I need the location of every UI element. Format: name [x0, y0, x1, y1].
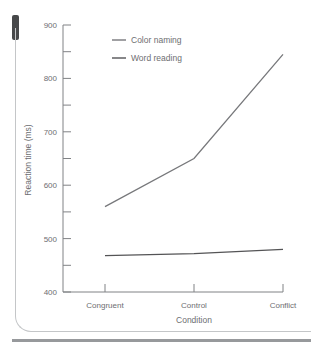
y-tick-label: 600 [44, 181, 58, 190]
series-line-word-reading [105, 249, 283, 255]
x-tick-label-conflict: Conflict [270, 301, 297, 310]
legend-label-word-reading: Word reading [131, 53, 182, 63]
y-axis-title: Reaction time (ms) [23, 124, 33, 195]
x-tick-label-control: Control [181, 301, 207, 310]
stroop-line-chart: 400500600700800900CongruentControlConfli… [0, 0, 311, 349]
x-tick-label-congruent: Congruent [86, 301, 124, 310]
y-tick-label: 500 [44, 235, 58, 244]
y-tick-label: 700 [44, 128, 58, 137]
y-tick-label: 800 [44, 74, 58, 83]
y-tick-label: 900 [44, 21, 58, 30]
series-line-color-naming [105, 54, 283, 206]
figure-canvas: 400500600700800900CongruentControlConfli… [0, 0, 311, 349]
page-edge-line [12, 339, 311, 342]
x-axis-title: Condition [176, 315, 212, 325]
legend-label-color-naming: Color naming [131, 35, 182, 45]
y-tick-label: 400 [44, 288, 58, 297]
